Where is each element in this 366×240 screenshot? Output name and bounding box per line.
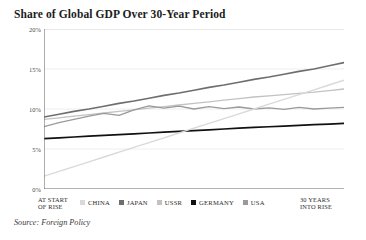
series-canvas <box>44 29 344 189</box>
x-axis-start-line2: OF RISE <box>38 203 68 210</box>
y-tick-10: 10% <box>29 106 41 113</box>
legend-swatch-icon-china <box>80 200 85 205</box>
legend-swatch-icon-ussr <box>157 200 162 205</box>
legend-swatch-icon-germany <box>191 200 196 205</box>
chart-legend: CHINAJAPANUSSRGERMANYUSA <box>80 199 265 206</box>
x-axis-end-label: 30 YEARS INTO RISE <box>300 196 332 211</box>
y-tick-15: 15% <box>29 66 41 73</box>
y-tick-20: 20% <box>29 26 41 33</box>
legend-item-germany[interactable]: GERMANY <box>191 199 234 206</box>
chart-title: Share of Global GDP Over 30-Year Period <box>14 8 226 20</box>
legend-item-japan[interactable]: JAPAN <box>119 199 148 206</box>
legend-label-china: CHINA <box>88 199 110 206</box>
legend-item-usa[interactable]: USA <box>243 199 265 206</box>
legend-item-ussr[interactable]: USSR <box>157 199 182 206</box>
x-axis-start-label: AT START OF RISE <box>38 196 68 211</box>
y-tick-0: 0% <box>32 186 41 193</box>
y-axis-tick-labels: 20% 15% 10% 5% 0% <box>16 29 41 189</box>
x-axis-end-line2: INTO RISE <box>300 203 332 210</box>
x-axis-start-line1: AT START <box>38 196 68 203</box>
legend-label-ussr: USSR <box>165 199 182 206</box>
legend-label-germany: GERMANY <box>199 199 234 206</box>
y-tick-5: 5% <box>32 146 41 153</box>
legend-swatch-icon-japan <box>119 200 124 205</box>
legend-swatch-icon-usa <box>243 200 248 205</box>
series-line-germany <box>44 123 344 138</box>
plot-area <box>44 29 344 189</box>
legend-item-china[interactable]: CHINA <box>80 199 110 206</box>
series-line-ussr <box>44 89 344 119</box>
series-line-china <box>44 80 344 176</box>
legend-label-usa: USA <box>251 199 265 206</box>
x-axis-end-line1: 30 YEARS <box>300 196 332 203</box>
source-note: Source: Foreign Policy <box>14 218 90 227</box>
chart-figure: Share of Global GDP Over 30-Year Period … <box>0 0 366 240</box>
legend-label-japan: JAPAN <box>127 199 148 206</box>
